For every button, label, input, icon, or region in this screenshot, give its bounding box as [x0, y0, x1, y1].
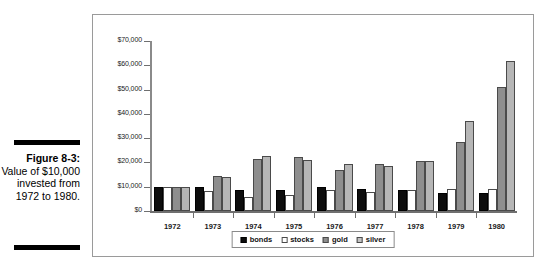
y-axis-tick-mark	[144, 187, 150, 188]
y-axis-tick-mark	[144, 162, 150, 163]
bar-1980-gold[interactable]	[497, 87, 506, 211]
legend-swatch-bonds-icon	[241, 237, 247, 243]
y-axis-tick-mark	[144, 138, 150, 139]
bar-groups	[152, 41, 517, 211]
x-axis-separator	[233, 212, 234, 218]
y-axis-tick-mark	[144, 41, 150, 42]
bar-group-1977	[357, 41, 393, 211]
x-axis-label-1979: 1979	[436, 222, 477, 231]
bar-1976-bonds[interactable]	[317, 187, 326, 211]
bar-1977-bonds[interactable]	[357, 189, 366, 211]
x-axis-separator	[193, 212, 194, 218]
bar-1979-stocks[interactable]	[447, 189, 456, 211]
x-axis-separator	[314, 212, 315, 218]
bar-1979-silver[interactable]	[465, 121, 474, 211]
x-axis-label-1977: 1977	[355, 222, 396, 231]
x-axis-separator	[436, 212, 437, 218]
bar-1977-gold[interactable]	[375, 164, 384, 211]
bar-1972-stocks[interactable]	[163, 187, 172, 211]
legend-item-bonds[interactable]: bonds	[241, 235, 273, 244]
chart-legend: bondsstocksgoldsilver	[232, 231, 395, 248]
bar-1972-silver[interactable]	[181, 187, 190, 211]
bar-1974-stocks[interactable]	[244, 197, 253, 211]
y-axis-tick-mark	[144, 211, 150, 212]
x-axis-separator	[395, 212, 396, 218]
bar-group-1975	[276, 41, 312, 211]
bar-1972-gold[interactable]	[172, 187, 181, 211]
bar-1976-gold[interactable]	[335, 170, 344, 211]
x-axis-label-1980: 1980	[476, 222, 517, 231]
bar-1975-silver[interactable]	[303, 160, 312, 211]
bar-1978-bonds[interactable]	[398, 190, 407, 211]
bar-1974-bonds[interactable]	[235, 190, 244, 211]
y-axis-tick-label: $0	[134, 206, 142, 213]
bar-1975-bonds[interactable]	[276, 190, 285, 211]
bar-1980-stocks[interactable]	[488, 189, 497, 211]
legend-label-silver: silver	[366, 235, 386, 244]
bar-1973-gold[interactable]	[213, 176, 222, 211]
bar-1972-bonds[interactable]	[154, 187, 163, 211]
y-axis-tick-label: $70,000	[117, 36, 142, 43]
bar-1973-bonds[interactable]	[195, 187, 204, 211]
bar-group-1978	[398, 41, 434, 211]
x-axis-label-1975: 1975	[274, 222, 315, 231]
y-axis-tick-label: $40,000	[117, 109, 142, 116]
bar-1975-gold[interactable]	[294, 157, 303, 211]
y-axis-tick-label: $60,000	[117, 60, 142, 67]
chart-frame: $70,000$60,000$50,000$40,000$30,000$20,0…	[92, 14, 534, 257]
bar-1979-gold[interactable]	[456, 142, 465, 211]
bar-group-1976	[317, 41, 353, 211]
legend-swatch-stocks-icon	[281, 237, 287, 243]
legend-item-silver[interactable]: silver	[357, 235, 386, 244]
y-axis-tick-label: $10,000	[117, 182, 142, 189]
legend-item-gold[interactable]: gold	[323, 235, 348, 244]
figure-caption-body: Value of $10,000 invested from 1972 to 1…	[0, 165, 80, 203]
x-axis-label-1978: 1978	[395, 222, 436, 231]
legend-label-gold: gold	[332, 235, 348, 244]
bar-group-1972	[154, 41, 190, 211]
bar-1979-bonds[interactable]	[438, 193, 447, 211]
bar-group-1979	[438, 41, 474, 211]
caption-rule-bottom	[14, 245, 80, 250]
legend-swatch-gold-icon	[323, 237, 329, 243]
y-axis-tick-mark	[144, 65, 150, 66]
y-axis-tick-labels: $70,000$60,000$50,000$40,000$30,000$20,0…	[93, 15, 150, 213]
y-axis-tick-label: $30,000	[117, 133, 142, 140]
figure-caption-block: Figure 8-3: Value of $10,000 invested fr…	[0, 0, 86, 271]
x-axis-separator	[476, 212, 477, 218]
y-axis-tick-label: $20,000	[117, 157, 142, 164]
figure-caption-text: Figure 8-3: Value of $10,000 invested fr…	[0, 152, 80, 202]
bar-1977-silver[interactable]	[384, 166, 393, 211]
bar-1976-stocks[interactable]	[326, 190, 335, 211]
bar-1980-bonds[interactable]	[479, 193, 488, 211]
bar-1978-silver[interactable]	[425, 161, 434, 212]
x-axis-label-1973: 1973	[193, 222, 234, 231]
y-axis-tick-mark	[144, 114, 150, 115]
bar-1978-gold[interactable]	[416, 161, 425, 211]
y-axis-tick-mark	[144, 90, 150, 91]
bar-1974-silver[interactable]	[262, 156, 271, 211]
x-axis-label-1974: 1974	[233, 222, 274, 231]
figure-caption-label: Figure 8-3:	[0, 152, 80, 165]
legend-label-stocks: stocks	[290, 235, 314, 244]
y-axis-tick-label: $50,000	[117, 85, 142, 92]
bar-1973-silver[interactable]	[222, 177, 231, 211]
bar-1978-stocks[interactable]	[407, 190, 416, 211]
bar-1975-stocks[interactable]	[285, 195, 294, 211]
bar-group-1974	[235, 41, 271, 211]
caption-rule-top	[14, 140, 80, 145]
bar-1977-stocks[interactable]	[366, 192, 375, 211]
legend-swatch-silver-icon	[357, 237, 363, 243]
legend-label-bonds: bonds	[250, 235, 273, 244]
x-axis-label-1972: 1972	[152, 222, 193, 231]
bar-1980-silver[interactable]	[506, 61, 515, 211]
bar-group-1980	[479, 41, 515, 211]
bar-1973-stocks[interactable]	[204, 191, 213, 211]
x-axis-label-1976: 1976	[314, 222, 355, 231]
x-axis-separator	[274, 212, 275, 218]
legend-item-stocks[interactable]: stocks	[281, 235, 314, 244]
x-axis-separator	[355, 212, 356, 218]
bar-1974-gold[interactable]	[253, 159, 262, 211]
bar-group-1973	[195, 41, 231, 211]
bar-1976-silver[interactable]	[344, 164, 353, 211]
